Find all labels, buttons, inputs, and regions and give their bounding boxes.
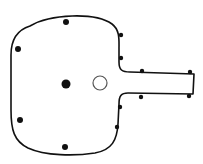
interior-dot xyxy=(15,46,21,52)
edge-dot xyxy=(140,69,144,73)
paddle-svg xyxy=(0,0,203,164)
open-circle-marker xyxy=(93,76,107,90)
interior-dot xyxy=(63,19,69,25)
interior-dot xyxy=(17,117,23,123)
interior-dot xyxy=(62,144,68,150)
center-large-dot xyxy=(62,80,71,89)
edge-dot xyxy=(139,95,143,99)
paddle-diagram xyxy=(0,0,203,164)
edge-dot xyxy=(115,125,119,129)
edge-dot xyxy=(119,33,123,37)
edge-dot xyxy=(188,70,192,74)
edge-dot xyxy=(119,56,123,60)
edge-dot xyxy=(187,94,191,98)
edge-dot xyxy=(118,105,122,109)
